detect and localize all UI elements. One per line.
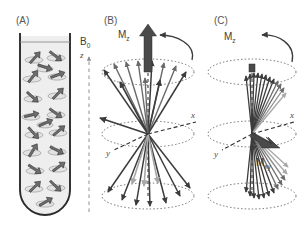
- y-axis-c: [222, 134, 252, 150]
- b0-label: B0: [80, 36, 91, 49]
- x-axis-label-c: x: [289, 110, 294, 120]
- panel-b: (B): [100, 15, 196, 209]
- x-axis-label-b: x: [190, 110, 195, 120]
- z-axis-label: z: [79, 50, 84, 60]
- panel-a-label: (A): [16, 15, 29, 26]
- mz-label-b: Mz: [118, 29, 130, 42]
- nmr-magnetization-figure: (A): [0, 0, 306, 229]
- lower-cone-vectors-b: [108, 134, 190, 206]
- mz-stub-c: [249, 64, 255, 72]
- panel-c-label: (C): [214, 15, 228, 26]
- y-axis-label-c: y: [213, 149, 218, 159]
- precession-arrow-c: [262, 35, 293, 62]
- y-axis-label-b: y: [105, 148, 110, 158]
- panel-a: (A): [16, 15, 91, 215]
- panel-b-label: (B): [104, 15, 117, 26]
- panel-c: (C): [208, 15, 296, 209]
- precession-arrow-b: [160, 35, 193, 60]
- b0-field-axis: B0 z: [79, 36, 91, 212]
- mz-label-c: Mz: [224, 31, 236, 44]
- mz-vector-b: [140, 24, 157, 72]
